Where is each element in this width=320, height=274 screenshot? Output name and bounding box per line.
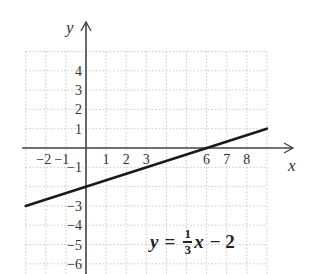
- equation-lhs: y: [150, 231, 158, 253]
- x-tick-label: −2: [36, 152, 51, 167]
- y-tick-label: −3: [67, 199, 82, 214]
- y-tick-label: −6: [67, 257, 82, 272]
- fraction-denominator: 3: [185, 244, 192, 256]
- equation-constant: − 2: [210, 231, 235, 253]
- y-tick-label: 3: [75, 83, 82, 98]
- fraction-numerator: 1: [185, 228, 192, 240]
- x-tick-label: 7: [223, 152, 230, 167]
- y-tick-label: −1: [67, 160, 82, 175]
- equation-variable: x: [194, 231, 204, 253]
- y-tick-label: 4: [75, 64, 82, 79]
- equation-label: y = 1 3 x − 2: [150, 228, 235, 256]
- equation-equals: =: [164, 231, 175, 253]
- y-tick-label: 2: [75, 102, 82, 117]
- x-tick-label: 6: [203, 152, 210, 167]
- y-tick-label: −4: [67, 218, 82, 233]
- x-axis-label: x: [287, 156, 296, 175]
- x-tick-label: 1: [103, 152, 110, 167]
- x-tick-label: 3: [143, 152, 150, 167]
- x-tick-label: 2: [123, 152, 130, 167]
- y-tick-label: −5: [67, 238, 82, 253]
- x-tick-label: 8: [243, 152, 250, 167]
- y-axis-label: y: [64, 18, 74, 37]
- y-tick-label: 1: [75, 122, 82, 137]
- equation-fraction: 1 3: [183, 228, 192, 256]
